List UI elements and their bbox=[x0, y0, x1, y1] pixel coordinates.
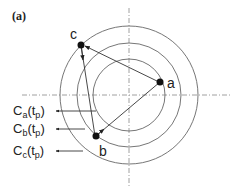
panel-label: (a) bbox=[12, 9, 26, 23]
point-c bbox=[78, 42, 85, 49]
diagram: (a) a b c Ca(tp) Cb(tp) Cc(tp) bbox=[0, 0, 240, 192]
contour-label-c: Cc(tp) bbox=[13, 143, 44, 160]
point-c-label: c bbox=[70, 26, 77, 42]
contour-label-b: Cb(tp) bbox=[13, 121, 45, 138]
point-b-label: b bbox=[99, 143, 107, 159]
point-a bbox=[157, 79, 164, 86]
point-b bbox=[93, 133, 100, 140]
point-a-label: a bbox=[167, 75, 175, 91]
edge-b-to-a bbox=[96, 82, 160, 136]
contour-label-a: Ca(tp) bbox=[13, 103, 45, 120]
